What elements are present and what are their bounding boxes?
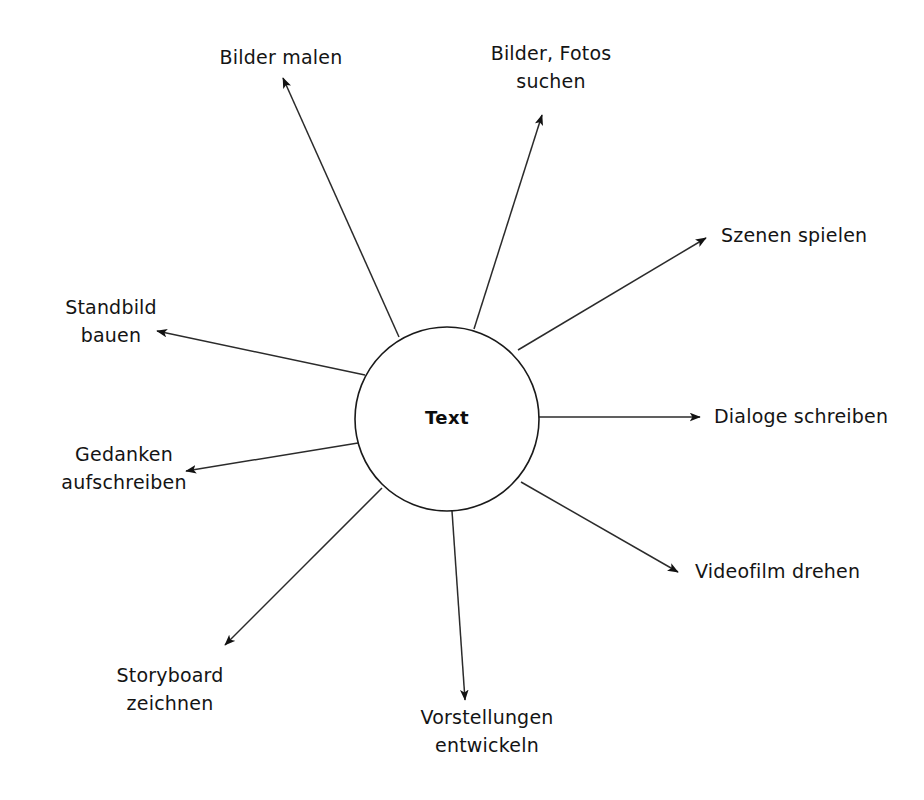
branch-arrow-standbild-bauen [157, 331, 365, 375]
branch-arrow-storyboard-zeichnen [225, 488, 382, 645]
branch-label-line: suchen [491, 68, 612, 96]
branch-label-line: Vorstellungen [420, 704, 553, 732]
branch-label-line: Standbild [65, 294, 157, 322]
branch-label-line: Dialoge schreiben [714, 403, 888, 431]
branch-label-vorstellungen-entwickeln[interactable]: Vorstellungenentwickeln [420, 704, 553, 759]
branch-label-line: zeichnen [116, 690, 223, 718]
branch-label-line: Bilder, Fotos [491, 40, 612, 68]
branch-arrow-bilder-fotos-suchen [474, 115, 542, 329]
branch-label-szenen-spielen[interactable]: Szenen spielen [721, 222, 867, 250]
branch-label-line: bauen [65, 322, 157, 350]
branch-label-videofilm-drehen[interactable]: Videofilm drehen [695, 558, 860, 586]
branch-label-line: Videofilm drehen [695, 558, 860, 586]
branch-arrow-gedanken-aufschreiben [186, 443, 358, 471]
branch-label-bilder-malen[interactable]: Bilder malen [220, 44, 343, 72]
branch-arrow-videofilm-drehen [521, 482, 678, 572]
branch-label-line: Bilder malen [220, 44, 343, 72]
branch-label-gedanken-aufschreiben[interactable]: Gedankenaufschreiben [61, 441, 186, 496]
branch-label-line: Szenen spielen [721, 222, 867, 250]
branch-arrow-vorstellungen-entwickeln [452, 511, 465, 700]
branch-label-line: Storyboard [116, 662, 223, 690]
branch-label-bilder-fotos-suchen[interactable]: Bilder, Fotossuchen [491, 40, 612, 95]
branch-label-line: aufschreiben [61, 469, 186, 497]
center-node-label: Text [357, 407, 537, 428]
branch-arrow-szenen-spielen [518, 238, 706, 350]
mindmap-canvas: Text Bilder malenBilder, FotossuchenSzen… [0, 0, 924, 800]
branch-label-storyboard-zeichnen[interactable]: Storyboardzeichnen [116, 662, 223, 717]
branch-arrow-bilder-malen [283, 78, 399, 337]
branch-label-line: Gedanken [61, 441, 186, 469]
branch-label-line: entwickeln [420, 732, 553, 760]
branch-label-dialoge-schreiben[interactable]: Dialoge schreiben [714, 403, 888, 431]
branch-label-standbild-bauen[interactable]: Standbildbauen [65, 294, 157, 349]
